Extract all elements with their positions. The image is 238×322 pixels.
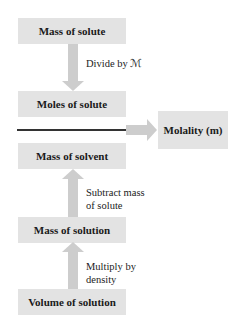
node-moles-of-solute: Moles of solute bbox=[18, 91, 126, 117]
edge-label-line: density bbox=[86, 273, 136, 286]
edge-label-line: of solute bbox=[86, 199, 145, 212]
node-label: Mass of solution bbox=[34, 224, 110, 236]
edge-label-subtract-mass: Subtract mass of solute bbox=[86, 186, 145, 212]
node-volume-of-solution: Volume of solution bbox=[18, 289, 126, 315]
node-mass-of-solution: Mass of solution bbox=[18, 217, 126, 243]
arrow-right-icon bbox=[147, 119, 157, 141]
arrow-right-shaft bbox=[126, 125, 148, 135]
arrow-up-shaft bbox=[68, 178, 78, 217]
arrow-down-icon bbox=[62, 81, 84, 91]
arrow-up-shaft bbox=[68, 251, 78, 289]
edge-label-divide-by-molar-mass: Divide by ℳ bbox=[86, 57, 142, 70]
fraction-divider-line bbox=[17, 129, 126, 131]
node-mass-of-solvent: Mass of solvent bbox=[18, 143, 126, 169]
edge-label-multiply-density: Multiply by density bbox=[86, 260, 136, 286]
node-label: Mass of solute bbox=[39, 25, 106, 37]
edge-label-line: Multiply by bbox=[86, 260, 136, 273]
node-mass-of-solute: Mass of solute bbox=[18, 18, 126, 44]
arrow-down-shaft bbox=[68, 44, 78, 82]
edge-label-line: Subtract mass bbox=[86, 186, 145, 199]
node-label: Molality (m) bbox=[164, 124, 223, 136]
node-label: Moles of solute bbox=[37, 98, 107, 110]
node-label: Volume of solution bbox=[28, 296, 116, 308]
node-molality: Molality (m) bbox=[158, 111, 228, 149]
node-label: Mass of solvent bbox=[36, 150, 108, 162]
